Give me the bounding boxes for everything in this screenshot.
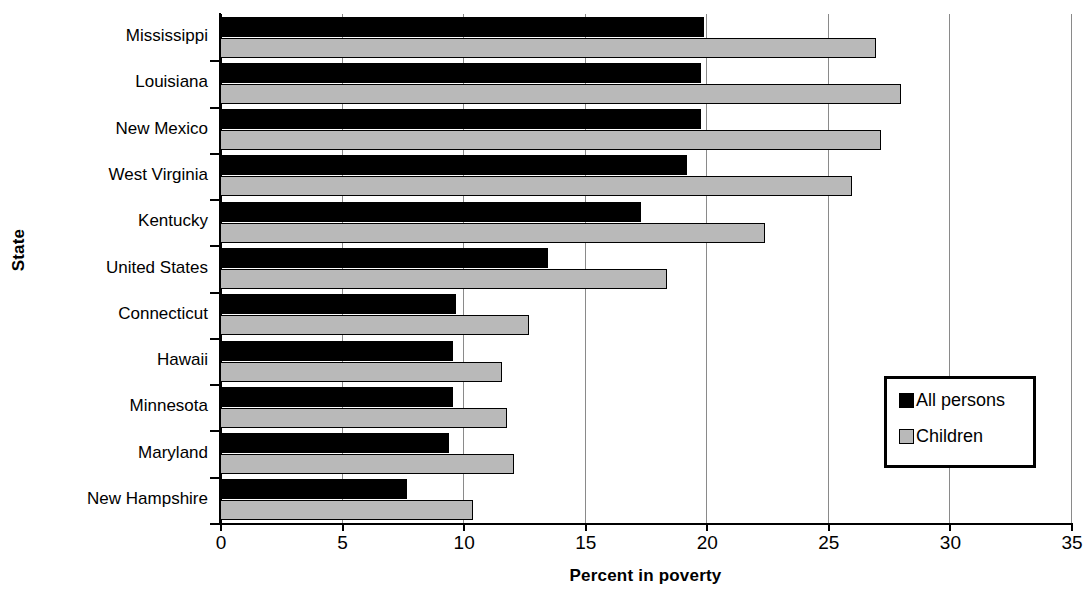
y-tick-mark xyxy=(210,477,221,479)
y-axis-category-label: Mississippi xyxy=(0,26,208,46)
legend-label: Children xyxy=(916,427,983,445)
y-tick-mark xyxy=(210,60,221,62)
bar-all-persons xyxy=(220,63,701,83)
x-tick-label: 10 xyxy=(434,532,494,554)
bar-children xyxy=(220,269,667,289)
y-axis-category-label: Minnesota xyxy=(0,396,208,416)
y-axis-category-label: Louisiana xyxy=(0,72,208,92)
bar-children xyxy=(220,84,901,104)
y-tick-mark xyxy=(210,153,221,155)
bar-all-persons xyxy=(220,294,456,314)
bar-children xyxy=(220,176,852,196)
bar-all-persons xyxy=(220,109,701,129)
x-tick-mark xyxy=(949,523,951,531)
y-tick-mark xyxy=(210,523,221,525)
x-tick-label: 5 xyxy=(313,532,373,554)
x-axis-title: Percent in poverty xyxy=(220,566,1071,586)
x-tick-label: 0 xyxy=(191,532,251,554)
bar-children xyxy=(220,38,876,58)
x-tick-mark xyxy=(828,523,830,531)
bar-children xyxy=(220,408,507,428)
bar-children xyxy=(220,454,514,474)
bar-all-persons xyxy=(220,387,453,407)
y-axis-category-label: Maryland xyxy=(0,443,208,463)
bar-all-persons xyxy=(220,202,641,222)
y-axis-line xyxy=(219,13,221,524)
bar-all-persons xyxy=(220,155,687,175)
y-tick-mark xyxy=(210,384,221,386)
bar-all-persons xyxy=(220,479,407,499)
legend-entry-children: Children xyxy=(899,427,983,445)
x-tick-label: 15 xyxy=(556,532,616,554)
bar-children xyxy=(220,223,765,243)
x-tick-label: 30 xyxy=(920,532,980,554)
x-tick-mark xyxy=(585,523,587,531)
x-tick-label: 25 xyxy=(799,532,859,554)
legend: All persons Children xyxy=(884,376,1036,468)
legend-label: All persons xyxy=(916,391,1005,409)
y-axis-category-label: United States xyxy=(0,258,208,278)
x-tick-mark xyxy=(1071,523,1073,531)
bar-children xyxy=(220,500,473,520)
x-axis-line xyxy=(220,523,1073,525)
y-axis-category-label: Hawaii xyxy=(0,350,208,370)
poverty-by-state-bar-chart: State Percent in poverty 05101520253035 … xyxy=(0,0,1083,600)
bar-children xyxy=(220,362,502,382)
bar-all-persons xyxy=(220,433,449,453)
bar-children xyxy=(220,315,529,335)
x-tick-mark xyxy=(706,523,708,531)
y-tick-mark xyxy=(210,338,221,340)
y-axis-category-label: Connecticut xyxy=(0,304,208,324)
black-square-icon xyxy=(899,393,914,408)
y-axis-category-label: New Mexico xyxy=(0,119,208,139)
legend-entry-all-persons: All persons xyxy=(899,391,1005,409)
y-tick-mark xyxy=(210,199,221,201)
y-axis-category-label: West Virginia xyxy=(0,165,208,185)
x-tick-label: 35 xyxy=(1042,532,1083,554)
y-tick-mark xyxy=(210,292,221,294)
gridline xyxy=(1071,14,1072,523)
y-tick-mark xyxy=(210,245,221,247)
bar-all-persons xyxy=(220,17,704,37)
y-tick-mark xyxy=(210,107,221,109)
gray-square-icon xyxy=(899,429,914,444)
y-axis-category-label: New Hampshire xyxy=(0,489,208,509)
bar-children xyxy=(220,130,881,150)
y-axis-category-label: Kentucky xyxy=(0,211,208,231)
bar-all-persons xyxy=(220,248,548,268)
y-tick-mark xyxy=(210,430,221,432)
x-tick-mark xyxy=(463,523,465,531)
x-tick-mark xyxy=(342,523,344,531)
bar-all-persons xyxy=(220,341,453,361)
x-tick-label: 20 xyxy=(677,532,737,554)
